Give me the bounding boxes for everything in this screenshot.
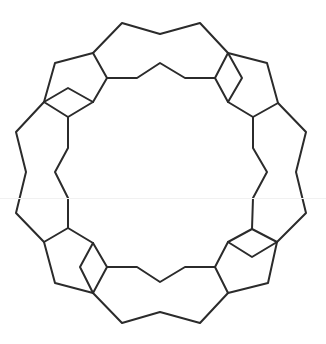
tr-pentagon-a-edge [228, 53, 278, 117]
tl-pentagon-a-edge [44, 53, 93, 102]
bl-rhombus-edge [80, 243, 107, 293]
tl-pentagon-b-edge [93, 53, 107, 102]
inner-bottom-arc-edge [107, 267, 215, 282]
tl-rhombus-edge [44, 88, 93, 117]
polycyclic-ring-diagram [0, 0, 326, 344]
outer-top-arc-edge [93, 23, 228, 53]
inner-top-arc-edge [107, 63, 215, 78]
inner-left-arc-edge [55, 117, 68, 228]
br-pentagon-a-edge [215, 242, 277, 293]
outer-left-arc-edge [16, 102, 44, 242]
faint-guide-line [0, 198, 326, 199]
br-rhombus-edge [228, 229, 277, 257]
tr-rhombus-edge [215, 53, 242, 102]
outer-right-arc-edge [277, 103, 306, 242]
inner-right-arc-edge [252, 117, 267, 229]
diagram-canvas [0, 0, 326, 344]
outer-bottom-arc-edge [93, 293, 228, 323]
bl-pentagon-b-edge [68, 228, 93, 243]
